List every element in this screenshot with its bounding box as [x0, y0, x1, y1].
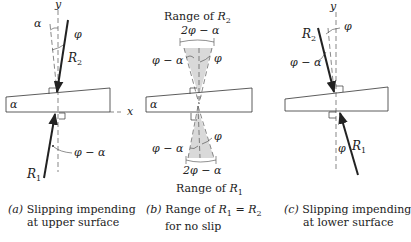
caption-c: (c) Slipping impending at lower surface: [284, 203, 411, 229]
caption-b: (b) Range of R1 = R2 for no slip: [146, 203, 262, 233]
alpha-label-a: α: [34, 17, 42, 30]
caption-b-r1: R: [219, 203, 227, 216]
two-phi-minus-alpha-top: 2φ − α: [180, 24, 220, 37]
wedge-alpha-b: α: [150, 98, 158, 111]
caption-b-prefix: Range of: [165, 203, 218, 216]
phi-top-c: φ: [344, 20, 352, 33]
phi-bottom-b: φ: [214, 130, 222, 143]
wedge-c: [285, 87, 388, 111]
phi-minus-alpha-a: φ − α: [74, 146, 106, 159]
phi-minus-alpha-bottom-b: φ − α: [152, 142, 184, 155]
caption-a-line1: Slipping impending: [27, 203, 136, 216]
panel-c: y φ R2 φ − α φ R1: [285, 0, 388, 175]
caption-c-line1: Slipping impending: [302, 203, 411, 216]
range-r1-title: Range of R1: [176, 182, 243, 197]
wedge-alpha-a: α: [10, 98, 18, 111]
caption-b-line2: for no slip: [146, 220, 221, 233]
r1-label-c: R1: [351, 139, 366, 155]
two-phi-minus-alpha-bottom: 2φ − α: [182, 164, 222, 177]
range-r2-cone: [184, 48, 212, 96]
range-r1-cone: [188, 110, 214, 158]
caption-b-tag: (b): [146, 203, 162, 216]
phi-minus-alpha-c: φ − α: [290, 56, 322, 69]
r2-label-a: R2: [67, 51, 82, 67]
caption-c-line2: at lower surface: [284, 216, 394, 229]
caption-b-sub2: 2: [256, 209, 261, 218]
phi-minus-alpha-top-b: φ − α: [152, 54, 184, 67]
normal-line-a: [50, 24, 57, 92]
r2-arrow-a: [57, 20, 68, 92]
panel-b: Range of R2 2φ − α φ − α φ α φ − α φ 2φ …: [146, 10, 252, 197]
y-label-a: y: [54, 0, 62, 11]
r2-label-c: R2: [301, 27, 316, 43]
caption-a: (a) Slipping impending at upper surface: [8, 203, 136, 229]
caption-a-tag: (a): [8, 203, 23, 216]
phi-label-a: φ: [74, 28, 82, 41]
phi-bottom-c: φ: [338, 142, 346, 155]
r1-label-a: R1: [26, 167, 41, 183]
x-label-a: x: [127, 105, 134, 118]
phi-top-b: φ: [214, 52, 222, 65]
range-r2-title: Range of R2: [164, 10, 231, 25]
y-label-c: y: [329, 0, 337, 13]
panel-a: y x α φ R2 α φ − α R1: [6, 0, 134, 183]
caption-b-eq: =: [232, 203, 248, 216]
caption-c-tag: (c): [284, 203, 299, 216]
caption-a-line2: at upper surface: [8, 216, 119, 229]
